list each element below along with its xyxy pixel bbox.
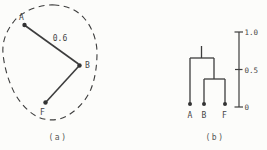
node-f-dot: [43, 100, 47, 104]
cluster-boundary-dashed-outline: [3, 5, 97, 120]
leaf-a-dot: [188, 102, 192, 106]
figure-svg: A B F 0.6 (a) A B F: [0, 0, 267, 150]
node-a-dot: [22, 23, 26, 27]
node-b-label: B: [85, 61, 90, 70]
scale-label-middle: 0.5: [245, 66, 259, 75]
figure-canvas: A B F 0.6 (a) A B F: [0, 0, 267, 150]
leaf-b-label: B: [202, 111, 207, 120]
panel-a-caption: (a): [49, 133, 68, 142]
panel-b-caption: (b): [206, 133, 225, 142]
node-a-label: A: [19, 13, 24, 22]
scale-label-bottom: 0: [245, 103, 250, 112]
edge-b-f: [47, 67, 79, 102]
leaf-a-label: A: [188, 111, 193, 120]
panel-a-graph: A B F 0.6 (a): [3, 5, 97, 142]
panel-b-dendrogram: A B F 1.0 0.5 0 (b): [188, 28, 259, 142]
scale-label-top: 1.0: [245, 28, 259, 37]
leaf-f-dot: [223, 102, 227, 106]
edge-a-b: [25, 26, 79, 65]
edge-a-b-weight-label: 0.6: [53, 34, 68, 43]
leaf-f-label: F: [222, 111, 227, 120]
node-b-dot: [77, 63, 81, 67]
node-f-label: F: [40, 108, 45, 117]
leaf-b-dot: [202, 102, 206, 106]
